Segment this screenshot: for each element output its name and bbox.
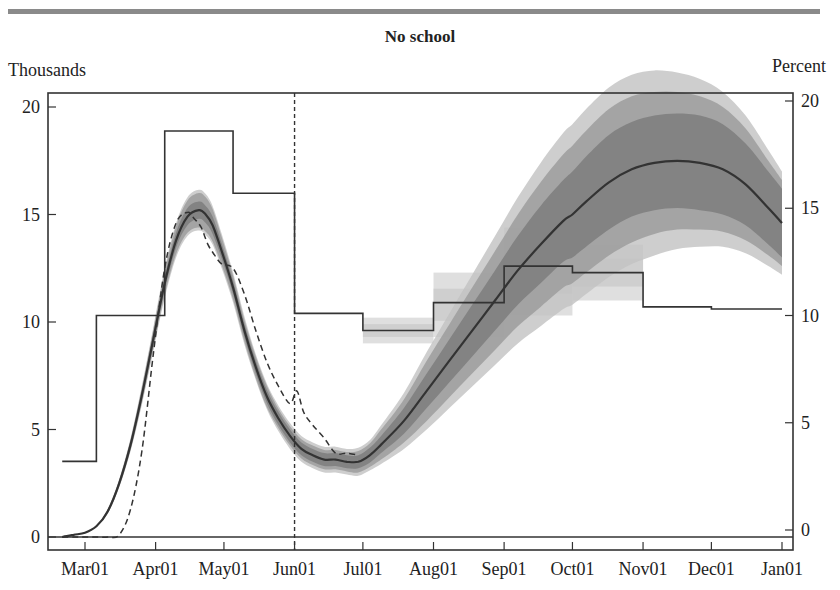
x-tick-label: Aug01: [409, 559, 458, 579]
x-tick-label: Sep01: [482, 559, 527, 579]
x-tick-label: Oct01: [550, 559, 594, 579]
observed-data-line: [62, 212, 358, 537]
x-tick-label: Jul01: [343, 559, 382, 579]
x-tick-label: May01: [198, 559, 249, 579]
left-y-tick-label: 10: [22, 312, 40, 332]
x-tick-label: Jun01: [273, 559, 316, 579]
chart-plot-area: 0510152005101520Mar01Apr01May01Jun01Jul0…: [0, 0, 840, 590]
left-y-tick-label: 15: [22, 205, 40, 225]
x-tick-label: Jan01: [761, 559, 803, 579]
right-y-tick-label: 20: [801, 91, 819, 111]
x-tick-label: Mar01: [61, 559, 109, 579]
left-y-tick-label: 0: [31, 527, 40, 547]
right-y-tick-label: 5: [801, 413, 810, 433]
x-tick-label: Dec01: [688, 559, 735, 579]
right-y-tick-label: 15: [801, 198, 819, 218]
right-y-tick-label: 10: [801, 306, 819, 326]
x-tick-label: Apr01: [133, 559, 179, 579]
left-y-tick-label: 20: [22, 97, 40, 117]
left-y-tick-label: 5: [31, 420, 40, 440]
x-tick-label: Nov01: [619, 559, 668, 579]
right-y-tick-label: 0: [801, 520, 810, 540]
